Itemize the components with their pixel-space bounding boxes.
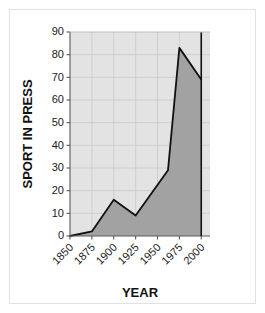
y-tick-label: 60 bbox=[52, 93, 64, 105]
y-tick-label: 0 bbox=[58, 229, 64, 241]
y-tick-label: 70 bbox=[52, 71, 64, 83]
y-tick-label: 20 bbox=[52, 184, 64, 196]
x-tick-label: 1850 bbox=[50, 241, 76, 267]
y-tick-labels: 0102030405060708090 bbox=[52, 25, 64, 241]
y-tick-label: 90 bbox=[52, 25, 64, 37]
area-chart: 0102030405060708090 18501875190019251950… bbox=[0, 0, 265, 313]
x-tick-label: 1950 bbox=[137, 241, 163, 267]
x-tick-label: 1975 bbox=[159, 241, 185, 267]
y-tick-label: 80 bbox=[52, 48, 64, 60]
y-axis-title: SPORT IN PRESS bbox=[20, 79, 35, 188]
x-tick-label: 1925 bbox=[115, 241, 141, 267]
x-axis-title: YEAR bbox=[122, 285, 159, 300]
y-tick-label: 10 bbox=[52, 207, 64, 219]
y-tick-label: 50 bbox=[52, 116, 64, 128]
x-tick-label: 2000 bbox=[181, 241, 207, 267]
y-tick-label: 40 bbox=[52, 139, 64, 151]
x-tick-labels: 1850187519001925195019752000 bbox=[50, 241, 207, 267]
chart-figure: 0102030405060708090 18501875190019251950… bbox=[0, 0, 265, 313]
x-tick-label: 1900 bbox=[93, 241, 119, 267]
y-tick-label: 30 bbox=[52, 161, 64, 173]
x-tick-label: 1875 bbox=[71, 241, 97, 267]
